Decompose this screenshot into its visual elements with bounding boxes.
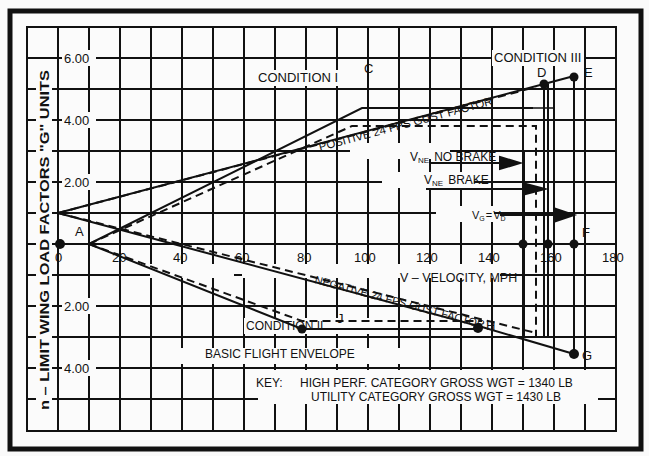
key-entry-high-perf: HIGH PERF. CATEGORY GROSS WGT = 1340 LB (300, 376, 573, 390)
v-n-diagram: n – LIMIT WING LOAD FACTORS "G" UNITS 6.… (0, 0, 649, 456)
y-tick-neg4: 4.00 (64, 361, 89, 376)
y-tick-neg2: 2.00 (64, 299, 89, 314)
y-tick-4: 4.00 (64, 113, 89, 128)
point-label-a: A (75, 224, 84, 239)
x-tick-40: 40 (173, 250, 187, 265)
point-label-g: G (582, 348, 592, 363)
x-tick-180: 180 (602, 250, 624, 265)
y-axis-title: n – LIMIT WING LOAD FACTORS "G" UNITS (37, 70, 52, 410)
condition-2-label: CONDITION II (246, 319, 323, 333)
point-label-h: H (486, 318, 495, 333)
condition-1-label: CONDITION I (258, 70, 338, 85)
x-tick-20: 20 (112, 250, 126, 265)
point-label-j: J (337, 311, 344, 326)
x-tick-80: 80 (297, 250, 311, 265)
point-label-e: E (584, 65, 593, 80)
x-tick-100: 100 (354, 250, 376, 265)
x-tick-160: 160 (540, 250, 562, 265)
x-tick-0: 0 (55, 250, 62, 265)
x-tick-120: 120 (416, 250, 438, 265)
point-label-c: C (364, 61, 373, 76)
x-tick-60: 60 (235, 250, 249, 265)
x-axis-title: V – VELOCITY, MPH (400, 271, 517, 285)
key-entry-utility: UTILITY CATEGORY GROSS WGT = 1430 LB (311, 390, 561, 404)
key-title: KEY: (256, 376, 283, 390)
basic-envelope-label: BASIC FLIGHT ENVELOPE (205, 347, 355, 361)
condition-3-label: CONDITION III (494, 50, 581, 65)
point-label-d: D (537, 65, 546, 80)
x-tick-140: 140 (478, 250, 500, 265)
y-tick-6: 6.00 (64, 51, 89, 66)
point-label-f: F (582, 225, 590, 240)
y-tick-2: 2.00 (64, 175, 89, 190)
